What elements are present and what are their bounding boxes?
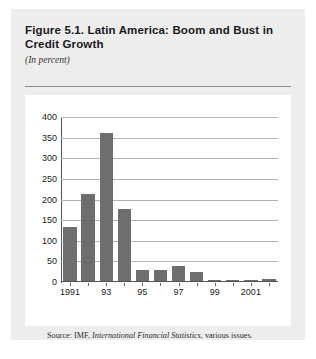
- x-axis-tick: [251, 283, 252, 286]
- y-axis-tick-label: 50: [47, 256, 57, 266]
- title-divider: [25, 86, 291, 87]
- axis-baseline: [61, 281, 278, 282]
- bar: [244, 280, 257, 281]
- y-axis-tick-label: 400: [42, 112, 57, 122]
- x-axis-tick: [106, 283, 107, 286]
- figure-subtitle: (In percent): [25, 54, 291, 66]
- y-axis-tick-label: 300: [42, 153, 57, 163]
- bar: [100, 133, 113, 282]
- plot-area: [61, 117, 278, 282]
- x-axis-tick: [70, 283, 71, 286]
- figure-panel: Figure 5.1. Latin America: Boom and Bust…: [11, 9, 305, 340]
- bar: [262, 279, 275, 281]
- bar: [118, 209, 131, 281]
- bar: [190, 272, 203, 281]
- y-axis-tick-label: 100: [42, 236, 57, 246]
- chart-canvas: 050100150200250300350400 199193959799200…: [25, 95, 291, 326]
- x-axis-tick-label: 99: [210, 287, 220, 297]
- bar: [136, 270, 149, 281]
- x-axis-tick: [88, 283, 89, 286]
- x-axis-tick: [269, 283, 270, 286]
- bar: [63, 227, 76, 281]
- x-axis-tick-label: 95: [137, 287, 147, 297]
- x-axis-tick: [215, 283, 216, 286]
- x-axis-tick: [124, 283, 125, 286]
- x-axis-tick-label: 97: [174, 287, 184, 297]
- x-axis-tick-label: 1991: [60, 287, 80, 297]
- y-axis-tick-label: 250: [42, 174, 57, 184]
- x-axis-tick-label: 2001: [241, 287, 261, 297]
- y-axis-tick-label: 200: [42, 195, 57, 205]
- x-axis-tick: [179, 283, 180, 286]
- bar: [172, 266, 185, 281]
- source-prefix: Source: IMF,: [47, 331, 92, 340]
- source-note: Source: IMF, International Financial Sta…: [47, 331, 297, 341]
- x-axis-tick: [197, 283, 198, 286]
- x-axis-tick-label: 93: [101, 287, 111, 297]
- bar: [226, 280, 239, 281]
- gridline: [61, 138, 278, 139]
- y-axis-tick-label: 0: [52, 277, 57, 287]
- title-block: Figure 5.1. Latin America: Boom and Bust…: [25, 23, 291, 66]
- source-suffix: , various issues.: [201, 331, 253, 340]
- x-axis-tick: [142, 283, 143, 286]
- bar: [154, 270, 167, 281]
- bar: [81, 194, 94, 281]
- gridline: [61, 158, 278, 159]
- y-axis-tick-label: 350: [42, 133, 57, 143]
- x-axis-tick: [160, 283, 161, 286]
- y-axis-labels: 050100150200250300350400: [25, 117, 57, 282]
- y-axis-tick-label: 150: [42, 215, 57, 225]
- gridline: [61, 179, 278, 180]
- source-publication: International Financial Statistics: [92, 331, 201, 340]
- gridline: [61, 117, 278, 118]
- page-title: Figure 5.1. Latin America: Boom and Bust…: [25, 23, 291, 51]
- x-axis-tick: [233, 283, 234, 286]
- bar: [208, 280, 221, 281]
